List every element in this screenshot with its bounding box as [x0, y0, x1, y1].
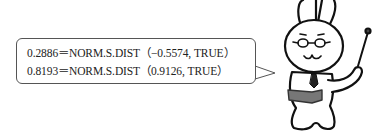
- pointer-stick: [358, 32, 368, 66]
- rabbit-character: [285, 0, 371, 129]
- formula-line-2: 0.8193＝NORM.S.DIST（0.9126, TRUE）: [27, 62, 228, 78]
- necktie-icon: [310, 74, 318, 88]
- head: [285, 20, 343, 72]
- formula-line-1: 0.2886＝NORM.S.DIST（−0.5574, TRUE）: [27, 44, 234, 60]
- speech-bubble: 0.2886＝NORM.S.DIST（−0.5574, TRUE） 0.8193…: [16, 38, 256, 84]
- open-book-icon: [288, 90, 322, 103]
- arm: [328, 67, 362, 92]
- bubble-tail: [255, 66, 275, 79]
